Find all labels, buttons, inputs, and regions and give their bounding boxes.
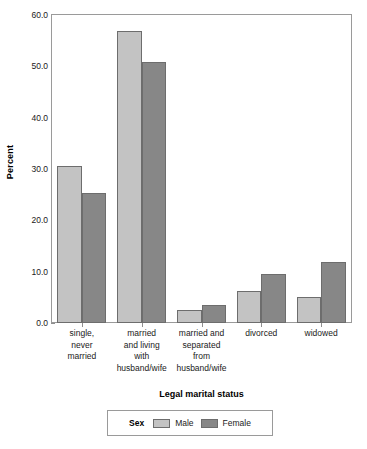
y-tick-label: 30.0 [31, 164, 51, 174]
x-tick-label: divorced [231, 328, 291, 340]
legend-entry-female[interactable]: Female [201, 418, 251, 428]
bar [82, 193, 107, 323]
x-axis-title: Legal marital status [51, 389, 352, 399]
x-tick-label-line: from [172, 351, 232, 363]
bar [261, 274, 286, 323]
x-tick-label: single,nevermarried [52, 328, 112, 363]
bar [142, 62, 167, 323]
x-tick-mark [321, 323, 322, 327]
x-tick-label-line: husband/wife [112, 363, 172, 375]
y-tick-label: 20.0 [31, 215, 51, 225]
x-tick-label-line: husband/wife [172, 363, 232, 375]
y-tick-label: 0.0 [36, 318, 51, 328]
y-axis-title: Percent [0, 0, 20, 323]
x-tick-label: widowed [291, 328, 351, 340]
x-tick-label-line: and living [112, 340, 172, 352]
legend-label-female: Female [223, 418, 251, 428]
y-tick-label: 60.0 [31, 10, 51, 20]
x-tick-label-line: separated [172, 340, 232, 352]
legend-swatch-female-icon [201, 419, 218, 428]
x-tick-label-line: single, [52, 328, 112, 340]
bar [321, 262, 346, 323]
y-tick-label: 10.0 [31, 266, 51, 276]
x-tick-mark [82, 323, 83, 327]
legend-title: Sex [129, 418, 144, 428]
x-tick-label: married andseparatedfromhusband/wife [172, 328, 232, 374]
x-tick-label-line: married and [172, 328, 232, 340]
legend-entry-male[interactable]: Male [153, 418, 193, 428]
bars-area [52, 15, 351, 323]
y-axis-title-label: Percent [5, 144, 15, 178]
x-axis-labels: single,nevermarriedmarriedand livingwith… [52, 328, 351, 384]
bar [117, 31, 142, 323]
legend-swatch-male-icon [153, 419, 170, 428]
y-tick-label: 40.0 [31, 112, 51, 122]
bar [237, 291, 262, 323]
bar [202, 305, 227, 323]
y-axis-ticks: 0.010.020.030.040.050.060.0 [0, 0, 51, 449]
bar [297, 297, 322, 323]
x-tick-mark [142, 323, 143, 327]
x-tick-label: marriedand livingwithhusband/wife [112, 328, 172, 374]
x-tick-mark [261, 323, 262, 327]
legend: Sex Male Female [107, 410, 273, 436]
x-tick-label-line: never [52, 340, 112, 352]
x-tick-label-line: widowed [291, 328, 351, 340]
x-tick-label-line: married [52, 351, 112, 363]
bar [57, 166, 82, 323]
bar [177, 310, 202, 323]
y-tick-label: 50.0 [31, 61, 51, 71]
x-tick-mark [202, 323, 203, 327]
legend-label-male: Male [175, 418, 193, 428]
x-tick-label-line: with [112, 351, 172, 363]
x-tick-label-line: divorced [231, 328, 291, 340]
x-tick-label-line: married [112, 328, 172, 340]
bar-chart: Percent 0.010.020.030.040.050.060.0 sing… [0, 0, 367, 449]
y-tick-mark [51, 323, 55, 324]
